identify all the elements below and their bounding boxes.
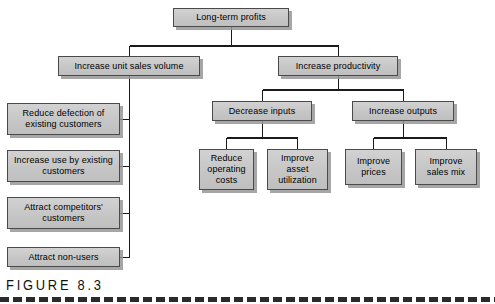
node-label: Decrease inputs [213,106,311,117]
node-increase-productivity[interactable]: Increase productivity [278,56,398,76]
node-label: Long-term profits [174,12,288,23]
node-decrease-inputs[interactable]: Decrease inputs [212,101,312,121]
figure-page: Long-term profits Increase unit sales vo… [0,0,495,304]
node-label: Improve sales mix [416,156,476,178]
node-label: Attract competitors' customers [8,202,119,224]
node-label: Increase unit sales volume [59,61,199,72]
node-reduce-defection-of-existing-customers[interactable]: Reduce defection of existing customers [7,103,120,135]
node-label: Increase outputs [353,106,453,117]
node-attract-competitors-customers[interactable]: Attract competitors' customers [7,197,120,229]
node-increase-use-by-existing-customers[interactable]: Increase use by existing customers [7,150,120,182]
caption-divider-rule [0,297,495,302]
node-improve-sales-mix[interactable]: Improve sales mix [415,149,477,185]
node-label: Reduce defection of existing customers [8,108,119,130]
node-increase-unit-sales-volume[interactable]: Increase unit sales volume [58,56,200,76]
figure-caption: FIGURE 8.3 [6,276,104,293]
node-long-term-profits[interactable]: Long-term profits [173,8,289,27]
node-improve-prices[interactable]: Improve prices [345,149,402,185]
node-label: Improve asset utilization [268,153,327,186]
node-increase-outputs[interactable]: Increase outputs [352,101,454,121]
node-label: Increase productivity [279,61,397,72]
node-improve-asset-utilization[interactable]: Improve asset utilization [267,149,328,190]
node-reduce-operating-costs[interactable]: Reduce operating costs [199,149,254,190]
node-label: Increase use by existing customers [8,155,119,177]
node-label: Reduce operating costs [200,153,253,186]
node-label: Attract non-users [8,252,119,263]
node-attract-non-users[interactable]: Attract non-users [7,247,120,267]
node-label: Improve prices [346,156,401,178]
